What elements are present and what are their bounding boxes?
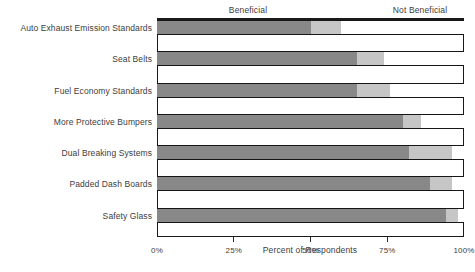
bar-segment-not-beneficial	[384, 52, 464, 65]
bar-track	[157, 176, 464, 191]
bar-segment-not-beneficial	[421, 115, 464, 128]
bar-row	[157, 83, 464, 98]
bar-segment-no-opinion	[311, 21, 342, 34]
bar-segment-beneficial	[157, 84, 357, 97]
plot-area: 0%25%50%75%100%	[157, 18, 464, 237]
bar-segment-beneficial	[157, 209, 446, 222]
x-axis-tick	[387, 237, 388, 242]
x-axis-title: Percent of Respondents	[263, 245, 358, 255]
bar-segment-no-opinion	[357, 52, 385, 65]
bar-row	[157, 176, 464, 191]
category-label: More Protective Bumpers	[0, 117, 152, 127]
stacked-bar-chart: Beneficial Not Beneficial Auto Exhaust E…	[0, 0, 475, 272]
bar-segment-beneficial	[157, 52, 357, 65]
bar-segment-no-opinion	[403, 115, 421, 128]
bar-track	[157, 51, 464, 66]
x-axis-tick	[233, 237, 234, 242]
bar-segment-not-beneficial	[341, 21, 464, 34]
category-label: Auto Exhaust Emission Standards	[0, 23, 152, 33]
bar-segment-no-opinion	[430, 177, 451, 190]
bar-track	[157, 20, 464, 35]
category-axis-labels: Auto Exhaust Emission StandardsSeat Belt…	[0, 18, 152, 237]
bar-segment-no-opinion	[357, 84, 391, 97]
x-axis-tick-label: 75%	[379, 246, 395, 255]
category-label: Dual Breaking Systems	[0, 148, 152, 158]
bar-segment-beneficial	[157, 115, 403, 128]
x-axis-tick-label: 100%	[454, 246, 475, 255]
bar-segment-no-opinion	[446, 209, 458, 222]
bar-segment-beneficial	[157, 146, 409, 159]
category-label: Safety Glass	[0, 211, 152, 221]
column-header-not-beneficial: Not Beneficial	[393, 5, 448, 15]
bar-segment-not-beneficial	[452, 146, 464, 159]
bar-segment-beneficial	[157, 21, 311, 34]
bar-track	[157, 83, 464, 98]
category-label: Fuel Economy Standards	[0, 86, 152, 96]
category-label: Seat Belts	[0, 54, 152, 64]
x-axis-tick	[310, 237, 311, 242]
bar-track	[157, 114, 464, 129]
x-axis-tick-label: 25%	[226, 246, 242, 255]
bar-row	[157, 114, 464, 129]
bar-segment-beneficial	[157, 177, 430, 190]
bar-row	[157, 20, 464, 35]
category-label: Padded Dash Boards	[0, 179, 152, 189]
bar-row	[157, 51, 464, 66]
bar-segment-not-beneficial	[390, 84, 464, 97]
bar-segment-no-opinion	[409, 146, 452, 159]
bar-segment-not-beneficial	[458, 209, 464, 222]
column-header-beneficial: Beneficial	[229, 5, 267, 15]
bar-row	[157, 145, 464, 160]
bar-segment-not-beneficial	[452, 177, 464, 190]
bar-track	[157, 208, 464, 223]
bar-track	[157, 145, 464, 160]
x-axis-tick-label: 0%	[151, 246, 163, 255]
bar-row	[157, 208, 464, 223]
